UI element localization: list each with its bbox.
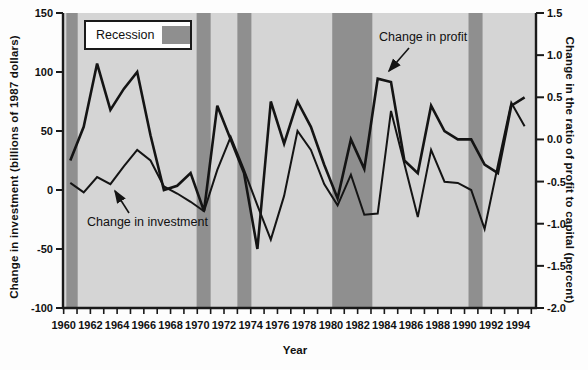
x-tick-label: 1962 (78, 319, 102, 331)
left-tick-label: -50 (37, 243, 53, 255)
x-tick-label: 1982 (345, 319, 369, 331)
x-tick-label: 1972 (212, 319, 236, 331)
recession-swatch-icon (162, 26, 190, 44)
x-tick-label: 1966 (132, 319, 156, 331)
annotation-change-in-profit: Change in profit (379, 30, 467, 44)
recession-band-0 (66, 13, 77, 308)
right-tick-label: -2.0 (547, 302, 566, 314)
left-tick-label: 150 (35, 7, 53, 19)
figure: 150100500-50-1001.51.00.50.0-0.5-1.0-1.5… (0, 0, 588, 370)
left-axis-title: Change in investment (billions of 1987 d… (8, 35, 20, 299)
x-tick-label: 1978 (292, 319, 316, 331)
x-tick-label: 1968 (158, 319, 182, 331)
x-axis-title: Year (265, 344, 325, 356)
left-tick-label: -100 (31, 302, 53, 314)
chart-plot: 150100500-50-1001.51.00.50.0-0.5-1.0-1.5… (0, 0, 588, 370)
plot-background (63, 13, 536, 308)
x-tick-label: 1970 (185, 319, 209, 331)
right-tick-label: 1.5 (547, 7, 562, 19)
recession-band-4 (469, 13, 483, 308)
left-tick-label: 100 (35, 66, 53, 78)
right-axis-title: Change in the ratio of profit to capital… (564, 37, 576, 304)
left-tick-label: 0 (47, 184, 53, 196)
left-tick-label: 50 (41, 125, 53, 137)
x-tick-label: 1974 (238, 319, 263, 331)
legend-label: Recession (96, 28, 154, 42)
x-tick-label: 1992 (479, 319, 503, 331)
x-tick-label: 1994 (506, 319, 531, 331)
x-tick-label: 1960 (51, 319, 75, 331)
recession-legend: Recession (84, 20, 192, 50)
annotation-change-in-investment: Change in investment (87, 215, 208, 229)
x-tick-label: 1986 (399, 319, 423, 331)
x-tick-label: 1976 (265, 319, 289, 331)
x-tick-label: 1980 (319, 319, 343, 331)
x-tick-label: 1988 (426, 319, 450, 331)
x-tick-label: 1990 (452, 319, 476, 331)
x-tick-label: 1984 (372, 319, 397, 331)
x-tick-label: 1964 (105, 319, 130, 331)
right-tick-label: 1.0 (547, 49, 562, 61)
recession-band-1 (197, 13, 211, 308)
right-tick-label: 0.5 (547, 91, 562, 103)
right-tick-label: 0.0 (547, 133, 562, 145)
